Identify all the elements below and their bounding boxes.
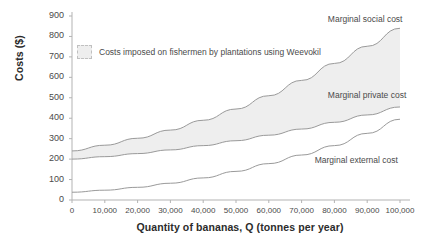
x-axis-title: Quantity of bananas, Q (tonnes per year) <box>60 221 420 233</box>
y-tick-label: 600 <box>32 71 64 81</box>
y-tick-label: 200 <box>32 153 64 163</box>
curve-label-marginal-private-cost: Marginal private cost <box>328 90 406 100</box>
curve-label-marginal-external-cost: Marginal external cost <box>315 155 398 165</box>
y-axis-title: Costs ($) <box>13 3 25 113</box>
y-tick-label: 500 <box>32 92 64 102</box>
legend-swatch-icon <box>77 45 92 59</box>
x-tick-label: 30,000 <box>158 206 182 215</box>
y-tick-label: 300 <box>32 133 64 143</box>
y-tick-label: 900 <box>32 10 64 20</box>
x-tick-label: 60,000 <box>257 206 281 215</box>
x-tick-label: 50,000 <box>224 206 248 215</box>
y-tick-label: 700 <box>32 51 64 61</box>
y-tick-label: 800 <box>32 30 64 40</box>
x-tick-label: 80,000 <box>322 206 346 215</box>
y-tick-label: 400 <box>32 112 64 122</box>
x-tick-label: 40,000 <box>191 206 215 215</box>
x-tick-label: 0 <box>70 206 74 215</box>
marginal-cost-chart: Costs ($) Quantity of bananas, Q (tonnes… <box>0 0 424 244</box>
x-tick-label: 100,000 <box>386 206 415 215</box>
legend: Costs imposed on fishermen by plantation… <box>77 45 321 59</box>
legend-label: Costs imposed on fishermen by plantation… <box>99 47 321 57</box>
x-tick-label: 10,000 <box>93 206 117 215</box>
x-tick-label: 20,000 <box>125 206 149 215</box>
y-tick-label: 100 <box>32 174 64 184</box>
x-tick-label: 70,000 <box>289 206 313 215</box>
curve-label-marginal-social-cost: Marginal social cost <box>328 14 403 24</box>
y-tick-label: 0 <box>32 194 64 204</box>
x-tick-label: 90,000 <box>355 206 379 215</box>
